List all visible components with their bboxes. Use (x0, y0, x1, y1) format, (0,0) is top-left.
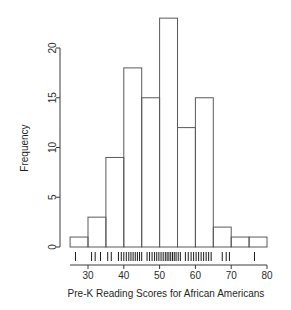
x-axis-tick-label: 70 (226, 270, 238, 281)
x-axis-tick-label: 40 (118, 270, 130, 281)
histogram-bar (88, 217, 106, 247)
x-axis-tick-label: 80 (261, 270, 273, 281)
histogram-bar (231, 237, 249, 247)
y-axis-title: Frequency (19, 124, 30, 171)
y-axis: 05101520 (47, 42, 61, 250)
x-axis-tick-label: 50 (154, 270, 166, 281)
histogram-bar (70, 237, 88, 247)
y-axis-tick-label: 20 (47, 42, 58, 54)
y-axis-tick-label: 15 (47, 92, 58, 104)
x-axis: 304050607080 (70, 265, 273, 281)
histogram-chart: 05101520 304050607080 Frequency Pre-K Re… (0, 0, 291, 310)
histogram-bar (106, 157, 124, 247)
x-axis-tick-label: 30 (82, 270, 94, 281)
rug-plot (75, 252, 254, 261)
histogram-bar (249, 237, 267, 247)
y-axis-tick-label: 10 (47, 142, 58, 154)
x-axis-title: Pre-K Reading Scores for African America… (68, 288, 265, 299)
histogram-bar (195, 98, 213, 247)
histogram-bar (178, 128, 196, 247)
histogram-bar (142, 98, 160, 247)
histogram-bar (213, 227, 231, 247)
histogram-bars (70, 18, 267, 247)
y-axis-tick-label: 5 (47, 194, 58, 200)
x-axis-tick-label: 60 (190, 270, 202, 281)
histogram-bar (124, 68, 142, 247)
histogram-bar (160, 18, 178, 247)
y-axis-tick-label: 0 (47, 244, 58, 250)
